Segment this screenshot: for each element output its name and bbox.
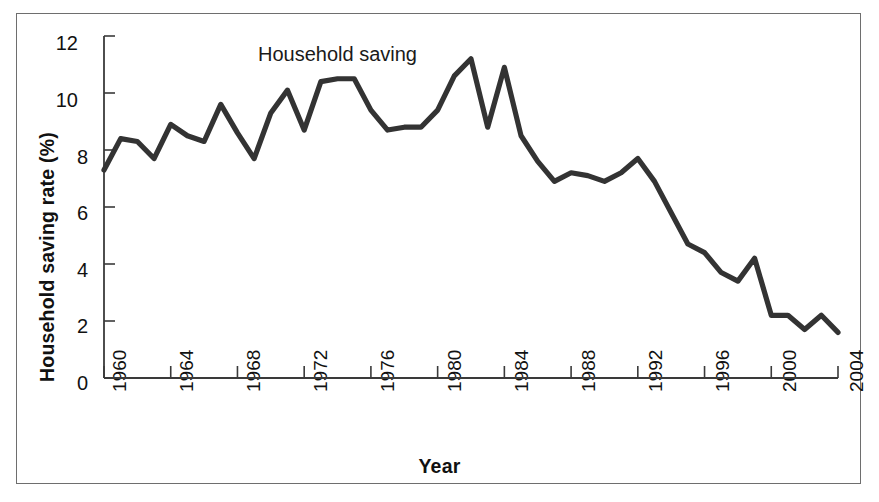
household-saving-line (104, 59, 838, 333)
chart-page: Household saving rate (%) Year Household… (0, 0, 879, 502)
y-axis-ticks (104, 36, 115, 321)
axis-lines (104, 36, 838, 378)
plot-area (0, 0, 879, 502)
x-axis-ticks (104, 366, 838, 378)
